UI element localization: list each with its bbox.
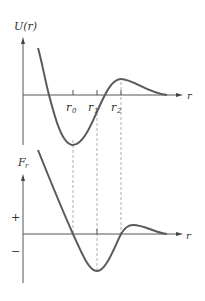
f-x-axis-arrow-icon	[176, 232, 183, 236]
svg-text:0: 0	[72, 107, 77, 115]
u-x-axis-arrow-icon	[176, 93, 183, 97]
f-y-axis-arrow-icon	[21, 174, 25, 181]
bottom-plot: F r r + −	[11, 150, 192, 283]
f-x-label: r	[186, 230, 192, 241]
u-y-axis-arrow-icon	[21, 37, 25, 44]
u-x-label: r	[187, 90, 193, 101]
positive-sign: +	[11, 211, 20, 224]
f-y-label: F r	[17, 156, 29, 170]
label-r0: r 0	[66, 101, 77, 115]
top-plot: U(r) r r 0 r 1 r 2	[14, 20, 193, 145]
label-r2: r 2	[111, 101, 122, 115]
force-curve	[38, 150, 167, 271]
svg-text:1: 1	[94, 107, 98, 115]
potential-curve	[38, 48, 167, 145]
svg-text:r: r	[25, 162, 29, 170]
negative-sign: −	[11, 245, 20, 258]
u-y-label: U(r)	[14, 20, 37, 33]
potential-force-diagram: U(r) r r 0 r 1 r 2 F r	[0, 0, 205, 301]
